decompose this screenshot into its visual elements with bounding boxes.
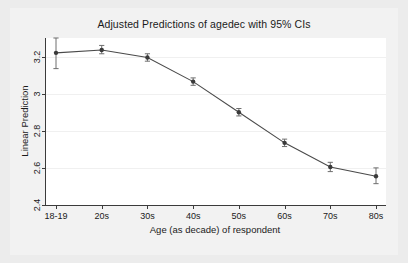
x-tick-mark xyxy=(56,205,57,209)
data-point-group xyxy=(99,45,104,53)
x-tick-label: 60s xyxy=(277,211,292,221)
x-tick-label: 50s xyxy=(232,211,247,221)
x-axis-title: Age (as decade) of respondent xyxy=(45,224,385,235)
data-point-marker xyxy=(237,110,241,114)
data-point-group xyxy=(282,139,287,146)
data-point-marker xyxy=(100,48,104,52)
data-point-group xyxy=(145,54,150,61)
data-point-marker xyxy=(54,51,58,55)
x-tick-label: 20s xyxy=(94,211,109,221)
data-point-group xyxy=(328,162,333,171)
chart-figure: Adjusted Predictions of agedec with 95% … xyxy=(0,0,408,263)
prediction-line xyxy=(56,50,376,176)
x-tick-label: 40s xyxy=(186,211,201,221)
x-tick-mark xyxy=(102,205,103,209)
data-point-marker xyxy=(145,55,149,59)
data-point-group xyxy=(373,168,378,184)
data-point-marker xyxy=(374,174,378,178)
data-point-group xyxy=(53,38,58,69)
plot-inner: 2.42.62.833.2 18-1920s30s40s50s60s70s80s xyxy=(46,38,386,205)
x-tick-mark xyxy=(376,205,377,209)
y-tick-mark xyxy=(42,205,46,206)
plot-area: 2.42.62.833.2 18-1920s30s40s50s60s70s80s xyxy=(45,38,386,206)
chart-title: Adjusted Predictions of agedec with 95% … xyxy=(10,18,398,30)
data-point-marker xyxy=(328,165,332,169)
graph-region: Adjusted Predictions of agedec with 95% … xyxy=(10,8,398,255)
y-tick-label: 3 xyxy=(32,91,42,96)
y-tick-label: 2.6 xyxy=(32,162,42,175)
y-tick-label: 2.8 xyxy=(32,125,42,138)
data-point-marker xyxy=(282,141,286,145)
y-axis-title: Linear Prediction xyxy=(19,85,30,156)
data-point-marker xyxy=(191,79,195,83)
x-tick-label: 18-19 xyxy=(44,211,67,221)
x-tick-label: 80s xyxy=(369,211,384,221)
data-point-group xyxy=(236,109,241,116)
data-point-group xyxy=(191,78,196,85)
x-tick-label: 30s xyxy=(140,211,155,221)
y-tick-label: 2.4 xyxy=(32,199,42,212)
x-tick-mark xyxy=(147,205,148,209)
x-tick-label: 70s xyxy=(323,211,338,221)
x-tick-mark xyxy=(285,205,286,209)
data-series xyxy=(46,38,386,205)
x-tick-mark xyxy=(239,205,240,209)
x-tick-mark xyxy=(193,205,194,209)
x-tick-mark xyxy=(330,205,331,209)
y-tick-label: 3.2 xyxy=(32,50,42,63)
